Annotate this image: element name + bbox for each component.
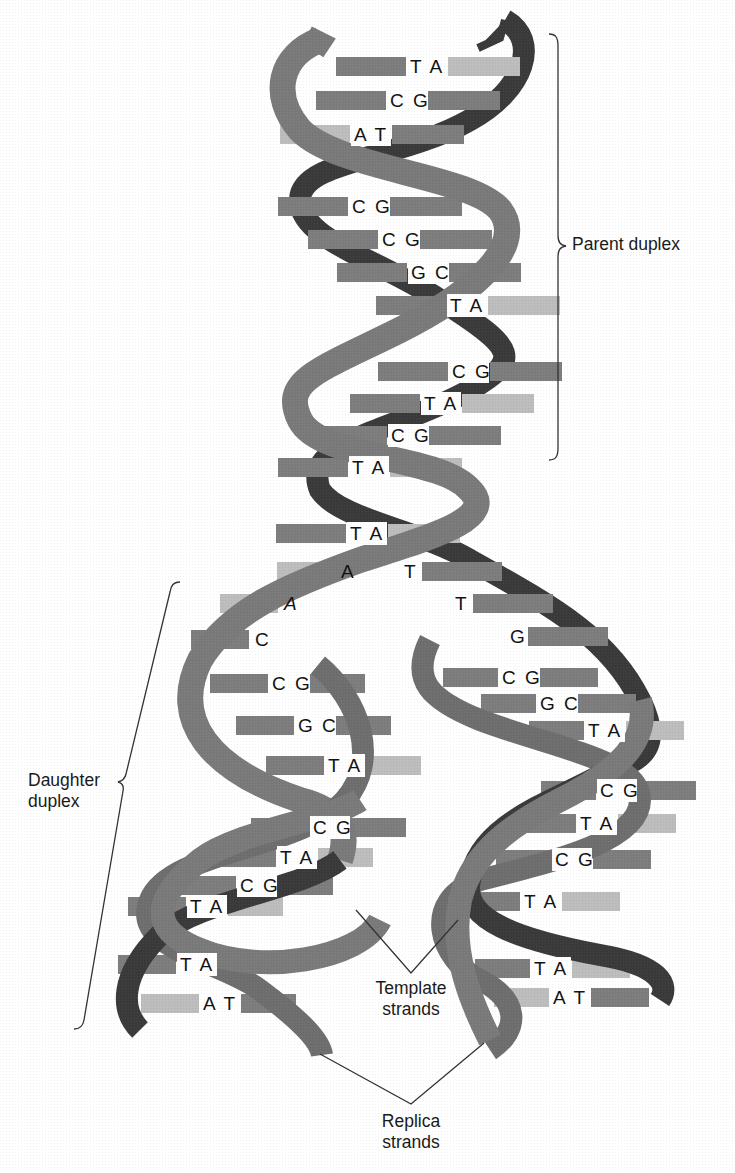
base-pair-label: C G: [555, 849, 595, 870]
unpaired-base-label: A: [283, 593, 299, 614]
base-bar: [378, 362, 448, 381]
base-pair-label: C G: [352, 196, 392, 217]
base-pair-label: A T: [203, 993, 237, 1014]
base-bar: [481, 694, 536, 713]
base-pair-label: C G: [272, 673, 312, 694]
base-bar: [278, 458, 348, 477]
base-pair-label: C G: [240, 875, 280, 896]
unpaired-base-label: T: [404, 561, 418, 582]
base-bar: [316, 91, 386, 110]
unpaired-base-label: A: [341, 561, 356, 582]
base-pair-label: A T: [553, 987, 587, 1008]
base-pair-label: T A: [450, 295, 484, 316]
base-bar: [336, 57, 406, 76]
dna-replication-diagram: T AC GA TC GC GG CT AC GT AC GT AT AC GG…: [0, 0, 735, 1173]
base-pair-label: T A: [328, 755, 362, 776]
base-bar: [276, 524, 346, 543]
base-bar: [390, 197, 462, 216]
base-pair-label: C G: [502, 667, 542, 688]
base-bar: [141, 994, 199, 1013]
base-bar: [366, 756, 421, 775]
base-bar: [540, 668, 598, 687]
base-bar: [429, 426, 501, 445]
base-pair-label: T A: [350, 523, 384, 544]
base-bar: [337, 263, 407, 282]
unpaired-base-label: G: [510, 626, 527, 647]
base-bar: [528, 627, 608, 646]
base-bar: [422, 562, 502, 581]
daughter-duplex-label: Daughter duplex: [28, 770, 100, 812]
base-pair-label: T A: [534, 958, 568, 979]
base-pair-label: C G: [390, 90, 430, 111]
base-bar: [350, 394, 420, 413]
base-pair-label: T A: [410, 56, 444, 77]
base-bar: [488, 296, 560, 315]
dna-helix-illustration: T AC GA TC GC GG CT AC GT AC GT AT AC GG…: [0, 0, 735, 1173]
base-bar: [443, 668, 498, 687]
base-pair-label: T A: [352, 457, 386, 478]
base-bar: [351, 818, 406, 837]
replica-strands-leader: [320, 1043, 484, 1104]
base-bar: [462, 394, 534, 413]
base-bar: [278, 197, 348, 216]
base-bar: [236, 716, 294, 735]
base-bar: [490, 362, 562, 381]
base-bar: [308, 230, 378, 249]
base-bar: [210, 674, 268, 693]
base-bar: [448, 57, 520, 76]
parent-duplex-label: Parent duplex: [572, 234, 680, 255]
base-pair-label: C G: [452, 361, 492, 382]
base-pair-label: T A: [190, 896, 224, 917]
parent-duplex-brace: [549, 34, 566, 460]
base-pair-label: C G: [391, 425, 431, 446]
base-bar: [428, 91, 500, 110]
base-pair-label: T A: [524, 891, 558, 912]
base-pair-label: T A: [588, 720, 622, 741]
base-pair-label: A T: [354, 124, 388, 145]
base-pair-label: C G: [382, 229, 422, 250]
base-pair-label: T A: [580, 813, 614, 834]
base-pair-label: T A: [280, 847, 314, 868]
base-bar: [266, 756, 324, 775]
base-pair-label: C G: [600, 780, 640, 801]
base-bar: [473, 594, 553, 613]
base-pair-label: T A: [424, 393, 458, 414]
base-pair-label: G C: [540, 693, 580, 714]
base-bar: [578, 694, 636, 713]
replica-strands-label: Replica strands: [373, 1111, 449, 1153]
base-bar: [420, 230, 492, 249]
base-bar: [562, 892, 620, 911]
base-bar: [591, 988, 649, 1007]
base-bar: [392, 125, 464, 144]
unpaired-base-label: T: [455, 593, 469, 614]
base-pair-label: C G: [313, 817, 353, 838]
template-strands-label: Template strands: [371, 978, 451, 1020]
base-pair-label: T A: [180, 954, 214, 975]
unpaired-base-label: C: [255, 629, 271, 650]
base-pair-label: G C: [298, 715, 338, 736]
base-pair-label: G C: [411, 262, 451, 283]
